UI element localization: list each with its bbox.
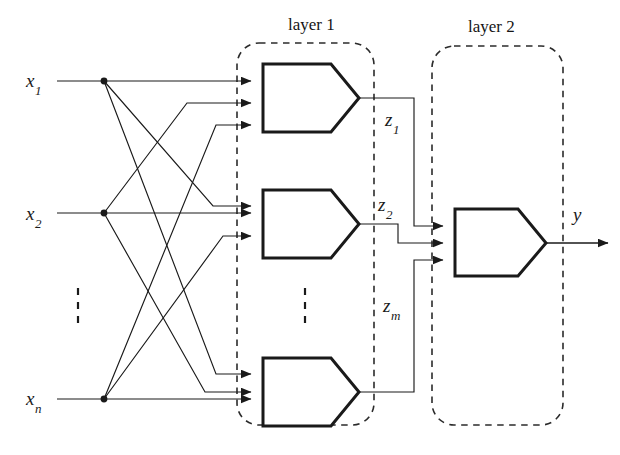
output-layer-neuron [455,209,546,276]
input-label-x1-base: x [26,70,34,91]
neural-network-figure: layer 1 layer 2 x1 x2 xn z1 z2 zm y [0,0,620,455]
continuation-ellipses [78,288,305,323]
input-label-x2-sub: 2 [35,216,42,231]
junction-dot-x2 [101,210,108,217]
signal-label-zm-sub: m [391,308,400,323]
layer-1-title: layer 1 [288,16,335,33]
connections-from-x2 [104,103,251,392]
junction-dot-xn [101,396,108,403]
input-label-x1-sub: 1 [35,83,42,98]
edge-zm-to-output [359,260,443,392]
input-label-xn-base: x [26,388,34,409]
diagram-canvas [0,0,620,455]
input-stems [57,81,104,399]
edge-z1-to-output [359,98,443,226]
signal-label-z2: z2 [378,195,392,218]
neuron-output-shape[interactable] [455,209,546,276]
edge-x2-to-neuron1 [104,103,251,213]
hidden-layer-neurons [263,64,359,426]
input-label-xn: xn [26,389,41,412]
edge-x1-to-neuron2 [104,81,251,206]
layer-2-title: layer 2 [468,18,515,35]
edge-x2-to-neuronm [104,213,251,392]
signal-label-z1-sub: 1 [393,122,400,137]
hidden-to-output-connections [359,98,443,392]
input-label-xn-sub: n [35,401,42,416]
junction-dot-x1 [101,78,108,85]
input-label-x2-base: x [26,203,34,224]
output-label-y-base: y [573,204,581,225]
signal-label-zm: zm [383,296,400,319]
input-label-x2: x2 [26,204,41,227]
signal-label-zm-base: z [383,295,390,316]
input-label-x1: x1 [26,71,41,94]
input-junction-dots [101,78,108,403]
neuron-m-shape[interactable] [263,358,359,426]
signal-label-z1-base: z [385,109,392,130]
neuron-1-shape[interactable] [263,64,359,132]
edge-z2-to-output [359,224,443,243]
neuron-2-shape[interactable] [263,190,359,258]
signal-label-z2-sub: 2 [386,207,393,222]
output-label-y: y [573,205,581,224]
signal-label-z1: z1 [385,110,399,133]
signal-label-z2-base: z [378,194,385,215]
